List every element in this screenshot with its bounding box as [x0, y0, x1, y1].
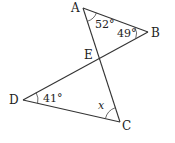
label-e: E	[84, 48, 93, 62]
label-a: A	[70, 1, 80, 15]
label-c: C	[122, 119, 131, 133]
geometry-diagram: A B C D E 52° 49° 41° x	[0, 0, 175, 143]
segment-bd	[23, 32, 148, 100]
angle-label-c: x	[98, 99, 105, 112]
angle-label-a: 52°	[95, 18, 115, 31]
label-d: D	[9, 93, 19, 107]
angle-arc-d	[36, 93, 38, 104]
angle-arc-c	[105, 108, 115, 119]
angle-label-b: 49°	[117, 27, 137, 40]
label-b: B	[151, 26, 160, 40]
segment-ab	[83, 8, 148, 32]
angle-label-d: 41°	[43, 92, 63, 105]
